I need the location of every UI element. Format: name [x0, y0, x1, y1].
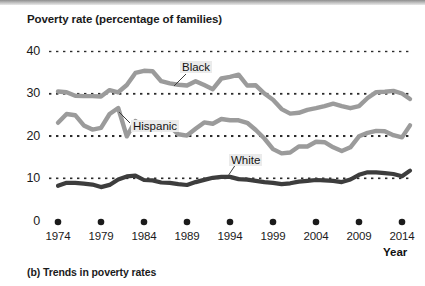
plot-area	[0, 0, 425, 286]
x-tick-label-1984: 1984	[122, 230, 166, 242]
x-tick-label-1989: 1989	[165, 230, 209, 242]
x-tick-label-1994: 1994	[208, 230, 252, 242]
x-tick-label-1999: 1999	[251, 230, 295, 242]
x-axis-title: Year	[383, 246, 407, 258]
x-tick-label-1974: 1974	[36, 230, 80, 242]
series-label-black: Black	[180, 61, 212, 73]
x-tick-label-2004: 2004	[294, 230, 338, 242]
poverty-rate-line-chart: Poverty rate (percentage of families) 40…	[0, 0, 425, 286]
x-tick-label-1979: 1979	[79, 230, 123, 242]
series-line-hispanic	[58, 108, 410, 153]
x-tick-label-2014: 2014	[380, 230, 424, 242]
figure-caption: (b) Trends in poverty rates	[27, 266, 156, 278]
series-line-black	[58, 71, 410, 114]
series-label-hispanic: Hispanic	[131, 120, 179, 132]
x-tick-label-2009: 2009	[337, 230, 381, 242]
x-axis-tick-dots	[55, 219, 406, 226]
series-label-white: White	[229, 154, 262, 166]
